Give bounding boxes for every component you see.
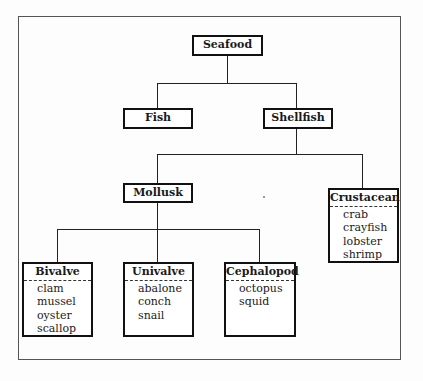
connector-shellfish-down: [296, 128, 297, 155]
list-item: octopus: [239, 282, 294, 295]
node-shellfish: Shellfish: [263, 108, 333, 129]
node-crustacean: Crustacean crab crayfish lobster shrimp: [328, 188, 399, 263]
list-item: oyster: [37, 309, 91, 322]
node-title: Crustacean: [330, 190, 397, 207]
node-title: Seafood: [194, 37, 261, 53]
node-mollusk: Mollusk: [123, 183, 193, 203]
node-title: Fish: [125, 110, 191, 126]
list-item: crayfish: [343, 221, 397, 234]
list-item: squid: [239, 295, 294, 308]
list-item: mussel: [37, 295, 91, 308]
list-item: abalone: [138, 282, 192, 295]
connector-fish-up: [157, 83, 158, 108]
connector-bivalve-up: [57, 229, 58, 262]
item-list: crab crayfish lobster shrimp: [330, 207, 397, 261]
connector-level1-bar: [157, 83, 297, 84]
connector-level3-bar: [57, 229, 260, 230]
item-list: octopus squid: [226, 281, 294, 309]
node-title: Cephalopod: [226, 264, 294, 281]
connector-mollusk-down: [157, 202, 158, 262]
stray-dot: [263, 196, 265, 198]
item-list: clam mussel oyster scallop: [24, 281, 91, 335]
item-list: abalone conch snail: [125, 281, 192, 322]
connector-crustacean-up: [362, 154, 363, 188]
list-item: conch: [138, 295, 192, 308]
node-fish: Fish: [123, 108, 193, 129]
node-seafood: Seafood: [192, 35, 263, 56]
node-title: Mollusk: [125, 185, 191, 201]
connector-shellfish-up: [296, 83, 297, 108]
node-title: Shellfish: [265, 110, 331, 126]
connector-cephalopod-up: [259, 229, 260, 262]
connector-seafood-down: [227, 55, 228, 84]
connector-level2-bar: [157, 154, 363, 155]
node-title: Bivalve: [24, 264, 91, 281]
list-item: crab: [343, 208, 397, 221]
list-item: shrimp: [343, 248, 397, 261]
connector-mollusk-up: [157, 154, 158, 183]
node-univalve: Univalve abalone conch snail: [123, 262, 194, 337]
list-item: snail: [138, 309, 192, 322]
node-bivalve: Bivalve clam mussel oyster scallop: [22, 262, 93, 337]
list-item: clam: [37, 282, 91, 295]
node-title: Univalve: [125, 264, 192, 281]
list-item: lobster: [343, 235, 397, 248]
list-item: scallop: [37, 322, 91, 335]
node-cephalopod: Cephalopod octopus squid: [224, 262, 296, 337]
